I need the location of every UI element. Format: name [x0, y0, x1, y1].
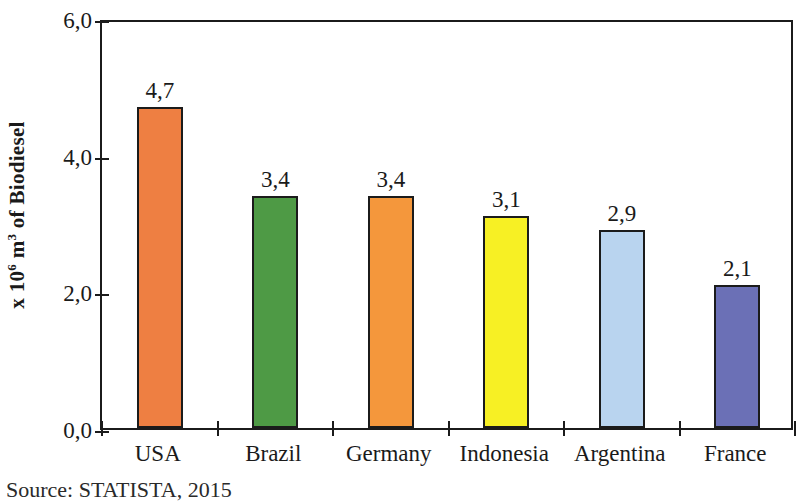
bar-value-label: 3,4	[376, 168, 405, 191]
bar-argentina: 2,9	[599, 230, 645, 428]
y-axis-tick-mark	[95, 21, 109, 23]
bar-germany: 3,4	[368, 196, 414, 428]
plot-area: 4,73,43,43,12,92,1	[100, 20, 793, 430]
y-axis-tick-label: 0,0	[34, 419, 92, 442]
y-axis-tick-mark	[95, 294, 109, 296]
x-axis-category-label: Argentina	[574, 442, 666, 465]
bar-france: 2,1	[714, 285, 760, 429]
x-axis-tick-mark	[101, 421, 103, 436]
y-axis-tick-label: 4,0	[34, 145, 92, 168]
bar-value-label: 3,1	[492, 188, 521, 211]
y-axis-title-text: x 106 m3 of Biodiesel	[4, 121, 30, 308]
bar-usa: 4,7	[137, 107, 183, 428]
y-axis-tick-label: 2,0	[34, 282, 92, 305]
x-axis-category-label: USA	[135, 442, 181, 465]
x-axis-category-label: Germany	[346, 442, 432, 465]
y-axis-title-exponent-10: 6	[4, 264, 19, 271]
y-axis-title-prefix: x 10	[5, 271, 29, 309]
y-axis-tick-label: 6,0	[34, 9, 92, 32]
y-axis-title-exponent-m: 3	[4, 234, 19, 241]
x-axis-tick-mark	[563, 421, 565, 436]
x-axis-tick-mark	[448, 421, 450, 436]
bar-value-label: 2,1	[723, 257, 752, 280]
bar-value-label: 4,7	[145, 79, 174, 102]
y-axis-tick-mark	[95, 158, 109, 160]
bar-indonesia: 3,1	[483, 216, 529, 428]
bar-value-label: 3,4	[261, 168, 290, 191]
y-axis-title: x 106 m3 of Biodiesel	[0, 0, 34, 430]
x-axis-tick-mark	[794, 421, 796, 436]
y-axis-tick-labels: 0,02,04,06,0	[30, 0, 92, 500]
x-axis-category-label: Brazil	[245, 442, 301, 465]
y-axis-title-unit: m	[5, 241, 29, 264]
x-axis-category-label: France	[704, 442, 767, 465]
source-note: Source: STATISTA, 2015	[6, 479, 232, 501]
x-axis-tick-mark	[217, 421, 219, 436]
bar-value-label: 2,9	[607, 202, 636, 225]
x-axis-tick-mark	[332, 421, 334, 436]
x-axis-category-label: Indonesia	[460, 442, 549, 465]
y-axis-title-suffix: of Biodiesel	[5, 121, 29, 233]
x-axis-tick-mark	[679, 421, 681, 436]
bar-brazil: 3,4	[252, 196, 298, 428]
